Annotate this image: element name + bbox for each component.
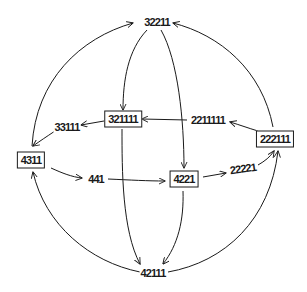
edge-22221-to-222111 [258, 151, 274, 165]
node-4221: 4221 [170, 171, 199, 188]
node-222111: 222111 [256, 131, 294, 148]
edge-222111-to-32211 [173, 23, 273, 127]
node-42111: 42111 [140, 267, 167, 280]
edge-32211-to-321111 [123, 30, 147, 110]
edge-321111-to-33111 [81, 121, 104, 125]
edge-4221-to-42111 [163, 191, 183, 264]
node-2211111: 2211111 [190, 114, 226, 127]
node-33111: 33111 [54, 121, 81, 134]
edge-321111-to-42111 [122, 129, 140, 264]
edge-42111-to-4311 [33, 172, 140, 272]
edge-4311-to-32211 [32, 23, 133, 146]
edge-32211-to-4221 [161, 30, 184, 168]
edge-4221-to-22221 [203, 173, 226, 177]
edge-4311-to-441 [51, 168, 82, 178]
edge-441-to-4221 [108, 179, 165, 181]
edge-33111-to-4311 [33, 131, 55, 146]
node-4311: 4311 [17, 152, 45, 169]
partition-diagram: 32211 321111 2211111 222111 33111 4311 4… [0, 0, 307, 292]
edge-42111-to-222111 [168, 151, 278, 272]
node-441: 441 [87, 173, 105, 186]
edge-2211111-to-321111 [142, 119, 187, 120]
node-32211: 32211 [143, 16, 170, 29]
edge-222111-to-2211111 [230, 122, 258, 131]
node-321111: 321111 [104, 111, 142, 128]
